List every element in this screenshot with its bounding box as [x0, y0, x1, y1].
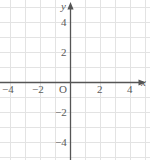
coordinate-plane-figure: y x O −4 −2 2 4 4 2 −2 −4: [0, 0, 150, 166]
y-axis-arrowhead: [67, 2, 73, 10]
axis-lines: [0, 0, 150, 166]
x-axis-arrowhead: [139, 79, 147, 85]
